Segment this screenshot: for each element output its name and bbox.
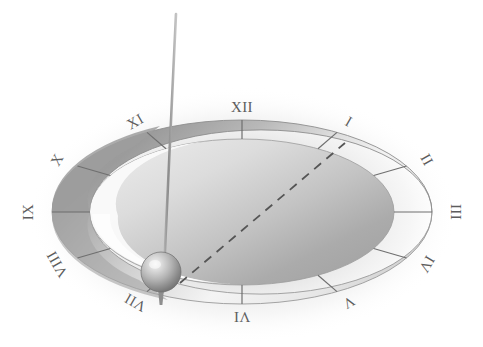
sundial-figure: XIIIIIIIIIVVVIVIIVIIIIXXXI [0,0,483,347]
hour-numeral-12: XII [231,99,253,115]
hour-numeral-9: IX [20,204,36,221]
bob-sphere [141,252,181,292]
hour-numeral-6: VI [234,309,251,325]
illustration-canvas: XIIIIIIIIIVVVIVIIVIIIIXXXI Sundial dial … [0,0,483,347]
hour-numeral-3: III [448,204,464,220]
bob-specular-highlight [149,260,161,269]
